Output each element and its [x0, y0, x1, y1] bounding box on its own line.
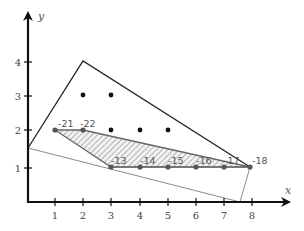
x-tick-label: 2 — [80, 210, 86, 221]
x-tick-label: 4 — [137, 210, 143, 221]
integer-point — [166, 128, 171, 133]
y-axis-label: y — [37, 10, 45, 23]
point-label: -15 — [168, 155, 184, 166]
y-tick-label: 1 — [15, 163, 21, 174]
integer-point — [138, 128, 143, 133]
point-label: -21 — [58, 118, 74, 129]
point-label: -18 — [252, 155, 268, 166]
x-axis-label: x — [285, 184, 292, 197]
axes: 1 2 3 4 5 6 7 8 1 2 3 4 y x — [15, 10, 292, 221]
y-tick-label: 3 — [15, 91, 21, 102]
x-tick-label: 7 — [221, 210, 227, 221]
labeled-point — [52, 127, 57, 132]
diagram-canvas: 1 2 3 4 5 6 7 8 1 2 3 4 y x — [0, 0, 304, 231]
diagram-svg: 1 2 3 4 5 6 7 8 1 2 3 4 y x — [0, 0, 304, 231]
integer-point — [109, 93, 114, 98]
point-label: -14 — [140, 155, 156, 166]
x-tick-label: 1 — [52, 210, 58, 221]
x-tick-label: 5 — [165, 210, 171, 221]
integer-point — [81, 93, 86, 98]
point-label: -13 — [111, 155, 127, 166]
integer-point — [109, 128, 114, 133]
point-label: -17 — [224, 155, 240, 166]
y-tick-label: 4 — [15, 57, 21, 68]
x-tick-label: 6 — [193, 210, 199, 221]
point-label: -16 — [196, 155, 212, 166]
y-tick-label: 2 — [15, 125, 21, 136]
x-tick-label: 8 — [249, 210, 255, 221]
point-label: -22 — [80, 118, 96, 129]
x-tick-label: 3 — [108, 210, 114, 221]
